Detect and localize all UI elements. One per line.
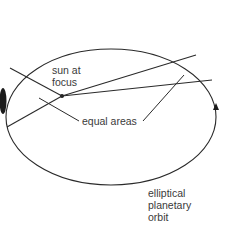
sun-at-focus-label: sun at focus (52, 64, 81, 88)
orbit-label-line1: elliptical (148, 187, 191, 199)
equal-areas-label: equal areas (82, 115, 137, 127)
orbit-label-line3: orbit (148, 211, 191, 223)
orbit-label-line2: planetary (148, 199, 191, 211)
sun-label-line1: sun at (52, 64, 81, 76)
planet-marker (0, 88, 7, 114)
radius-line-lower-right (62, 80, 212, 96)
radius-line-lower-left (7, 96, 62, 127)
kepler-orbit-diagram: sun at focus equal areas elliptical plan… (0, 0, 227, 233)
radius-line-upper-right (62, 55, 196, 96)
sun-label-line2: focus (52, 76, 81, 88)
pointer-line-right (143, 75, 184, 121)
orbit-label: elliptical planetary orbit (148, 187, 191, 223)
pointer-line-left (39, 98, 79, 121)
